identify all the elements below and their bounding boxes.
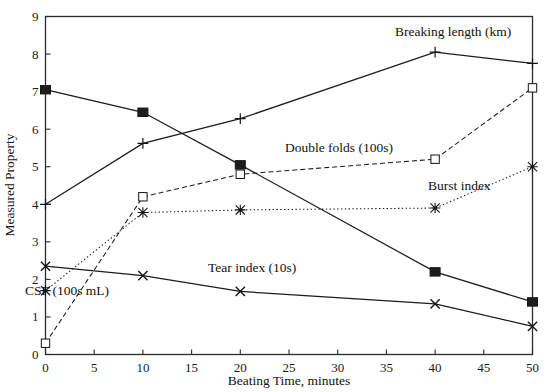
chart-figure: 0123456789 05101520253035404550 CSF (100…: [0, 0, 551, 392]
data-point-marker: [430, 203, 440, 213]
x-tick-label: 35: [380, 360, 393, 375]
data-point-marker: [139, 193, 147, 201]
series-layer: [40, 47, 538, 348]
data-point-marker: [527, 58, 538, 69]
x-axis-ticks: 05101520253035404550: [42, 350, 539, 375]
data-point-marker: [235, 161, 245, 169]
data-point-marker: [40, 199, 51, 210]
data-point-marker: [528, 84, 536, 92]
x-tick-label: 40: [429, 360, 442, 375]
y-tick-label: 8: [32, 47, 39, 62]
data-series: [41, 84, 536, 348]
series-line: [46, 266, 533, 326]
x-tick-label: 50: [526, 360, 539, 375]
y-tick-label: 4: [32, 197, 39, 212]
series-label: Tear index (10s): [208, 260, 296, 275]
y-axis-title: Measured Property: [2, 133, 17, 236]
y-tick-label: 3: [32, 234, 39, 249]
series-label: Breaking length (km): [395, 24, 511, 39]
data-point-marker: [41, 339, 49, 347]
x-tick-label: 15: [185, 360, 198, 375]
line-chart-plot: 0123456789 05101520253035404550 CSF (100…: [0, 0, 551, 392]
x-tick-label: 5: [91, 360, 98, 375]
x-axis-title: Beating Time, minutes: [228, 373, 351, 388]
data-point-marker: [527, 162, 537, 172]
y-axis-ticks: 0123456789: [32, 9, 51, 362]
y-tick-label: 5: [32, 159, 39, 174]
data-point-marker: [138, 108, 148, 116]
data-point-marker: [430, 268, 440, 276]
series-label: Double folds (100s): [285, 140, 393, 155]
x-tick-label: 45: [477, 360, 490, 375]
data-point-marker: [41, 86, 51, 94]
data-point-marker: [138, 207, 148, 217]
y-tick-label: 1: [32, 309, 39, 324]
x-tick-label: 0: [42, 360, 49, 375]
data-point-marker: [431, 155, 439, 163]
series-label: CSF (100s mL): [25, 283, 109, 298]
series-label: Burst index: [428, 178, 491, 193]
y-tick-label: 9: [32, 9, 39, 24]
data-point-marker: [528, 298, 538, 306]
x-tick-label: 10: [136, 360, 149, 375]
data-point-marker: [138, 138, 149, 149]
series-line: [46, 88, 533, 343]
data-point-marker: [235, 205, 245, 215]
data-point-marker: [236, 170, 244, 178]
y-tick-label: 6: [32, 122, 39, 137]
y-tick-label: 0: [32, 347, 39, 362]
y-tick-label: 7: [32, 84, 39, 99]
data-point-marker: [430, 47, 441, 58]
data-point-marker: [235, 113, 246, 124]
